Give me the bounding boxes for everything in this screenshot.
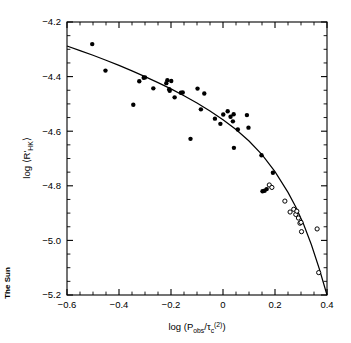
x-tick-label: −0.4 [110,299,129,310]
y-tick-label: −4.8 [42,180,61,191]
x-title-lead: log (P [168,321,193,332]
x-title-superscript: (2) [214,321,222,329]
data-point-filled [236,127,240,131]
data-point-filled [231,112,235,116]
data-point-filled [199,107,203,111]
data-point-filled [218,122,222,126]
data-point-filled [169,79,173,83]
data-point-open [283,199,287,203]
data-point-filled [131,103,135,107]
data-point-open [299,220,303,224]
data-point-filled [232,146,236,150]
y-tick-label: −5.0 [42,235,61,246]
data-point-filled [151,86,155,90]
x-tick-label: −0.6 [58,299,77,310]
data-point-filled [103,68,107,72]
data-point-filled [231,119,235,123]
x-title-tail: ) [222,321,225,332]
data-point-filled [137,79,141,83]
y-tick-label: −4.4 [42,71,61,82]
data-point-filled [271,171,275,175]
data-point-open [270,185,274,189]
x-tick-label: 0.2 [268,299,281,310]
data-point-open [296,216,300,220]
data-point-filled [245,113,249,117]
corner-note-the-sun: The Sun [3,267,12,299]
data-point-filled [202,91,206,95]
data-point-filled [246,125,250,129]
data-point-filled [168,89,172,93]
y-title-lead: log ⟨R' [21,151,32,179]
y-tick-label: −5.2 [42,289,61,300]
data-point-filled [195,86,199,90]
data-point-filled [172,95,176,99]
x-tick-label: −0.2 [162,299,181,310]
data-point-filled [225,109,229,113]
figure-container: −0.6−0.4−0.200.20.4 −5.2−5.0−4.8−4.6−4.4… [0,0,351,343]
data-point-filled [143,75,147,79]
data-point-open [299,230,303,234]
data-point-open [295,209,299,213]
data-point-open [315,227,319,231]
x-tick-label: 0 [220,299,225,310]
data-point-filled [181,90,185,94]
corner-note-group: The Sun [3,267,12,299]
data-point-open [317,271,321,275]
y-tick-label: −4.2 [42,16,61,27]
data-point-filled [188,137,192,141]
data-point-filled [213,116,217,120]
data-point-filled [165,78,169,82]
y-title-sub-hk: HK [27,141,34,151]
data-point-filled [264,187,268,191]
data-point-filled [221,112,225,116]
data-point-filled [90,42,94,46]
data-point-filled [259,153,263,157]
y-tick-label: −4.6 [42,126,61,137]
x-tick-label: 0.4 [320,299,333,310]
scatter-plot: −0.6−0.4−0.200.20.4 −5.2−5.0−4.8−4.6−4.4… [0,0,351,343]
x-title-sub-obs: obs [193,327,205,334]
y-title-tail: ⟩ [21,137,32,141]
